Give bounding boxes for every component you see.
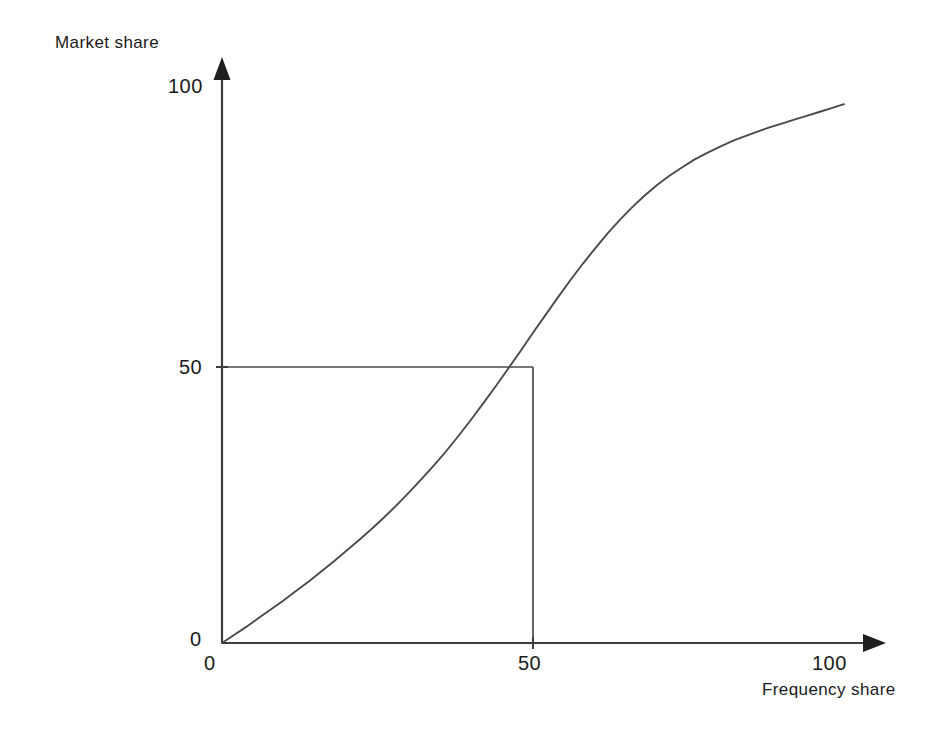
x-tick-label-0: 0 bbox=[204, 653, 216, 673]
y-tick-label-50: 50 bbox=[179, 357, 202, 377]
y-tick-label-100: 100 bbox=[168, 76, 203, 96]
x-axis-title: Frequency share bbox=[762, 681, 896, 698]
y-tick-label-0: 0 bbox=[190, 629, 202, 649]
chart-canvas bbox=[0, 0, 946, 734]
chart-figure: Market share Frequency share 100 50 0 0 … bbox=[0, 0, 946, 734]
x-axis-arrowhead-icon bbox=[863, 634, 886, 652]
x-tick-label-50: 50 bbox=[518, 653, 541, 673]
y-axis-title: Market share bbox=[55, 34, 159, 51]
y-axis-arrowhead-icon bbox=[214, 57, 231, 80]
x-tick-label-100: 100 bbox=[812, 653, 847, 673]
